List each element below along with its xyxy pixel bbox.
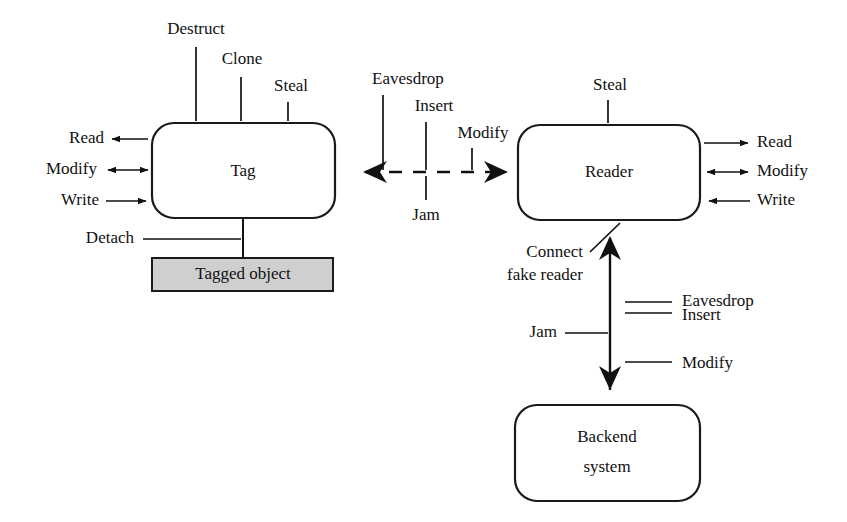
node-tagged-object[interactable]: Tagged object (152, 258, 333, 291)
tag-label: Tag (230, 161, 256, 180)
diagram-canvas: Tag Destruct Clone Steal Read Modify Wri… (0, 0, 847, 522)
node-reader[interactable]: Reader (518, 125, 700, 220)
tag-threat-detach-label: Detach (86, 228, 135, 247)
reader-interface-write-label: Write (757, 190, 795, 209)
tag-interface-write-label: Write (61, 190, 99, 209)
backend-system-label-line1: Backend (577, 427, 637, 446)
reader-label: Reader (585, 162, 633, 181)
tag-threat-destruct-label: Destruct (167, 19, 225, 38)
backend-threat-modify-label: Modify (682, 353, 734, 372)
tag-interface-read-label: Read (69, 128, 104, 147)
backend-system-label-line2: system (583, 457, 630, 476)
tag-interface-modify-label: Modify (46, 159, 98, 178)
air-threat-eavesdrop-label: Eavesdrop (372, 69, 444, 88)
threat-model-diagram: Tag Destruct Clone Steal Read Modify Wri… (0, 0, 847, 522)
backend-system-box[interactable] (515, 405, 700, 501)
connect-fake-reader-label-line2: fake reader (507, 265, 583, 284)
reader-interface-modify-label: Modify (757, 161, 809, 180)
reader-interface-read-label: Read (757, 132, 792, 151)
node-backend-system[interactable]: Backend system (515, 405, 700, 501)
tag-threat-clone-label: Clone (222, 49, 263, 68)
air-threat-jam-label: Jam (412, 205, 439, 224)
reader-threat-steal-label: Steal (593, 75, 627, 94)
tag-threat-steal-label: Steal (274, 76, 308, 95)
node-tag[interactable]: Tag (152, 123, 335, 218)
air-threat-insert-label: Insert (415, 96, 454, 115)
backend-threat-insert-label: Insert (682, 305, 721, 324)
tagged-object-label: Tagged object (195, 264, 291, 283)
connect-fake-reader-pointer (590, 223, 620, 252)
air-threat-modify-label: Modify (458, 123, 510, 142)
backend-threat-jam-label: Jam (530, 322, 557, 341)
connect-fake-reader-label-line1: Connect (526, 242, 583, 261)
